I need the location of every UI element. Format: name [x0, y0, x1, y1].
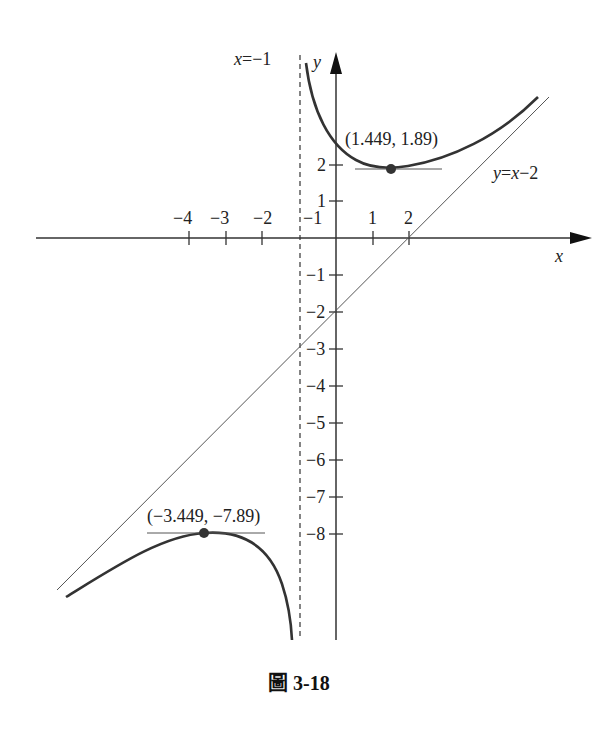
- y-tick-label: −1: [306, 265, 325, 285]
- y-tick-label: −3: [306, 339, 325, 359]
- y-tick-label: −7: [306, 487, 325, 507]
- max-point-label: (−3.449, −7.89): [147, 506, 260, 527]
- chart-canvas: x=−1 y x y=x−2 (1.449, 1.89) (−3.449, −7…: [0, 0, 601, 738]
- vertical-asymptote-label: x=−1: [233, 49, 271, 69]
- y-tick-label: 2: [317, 155, 326, 175]
- max-point-marker: [199, 528, 209, 538]
- x-tick-label: −2: [253, 208, 272, 228]
- oblique-asymptote: [57, 97, 549, 590]
- y-tick-label: −2: [306, 302, 325, 322]
- left-branch-curve: [66, 533, 292, 640]
- oblique-asymptote-label: y=x−2: [491, 163, 538, 183]
- y-axis-label: y: [311, 52, 321, 72]
- y-tick-label: 1: [317, 191, 326, 211]
- x-tick-label: −4: [173, 208, 192, 228]
- x-tick-label: −3: [210, 208, 229, 228]
- x-axis-arrow-icon: [570, 232, 592, 244]
- min-point-marker: [386, 164, 396, 174]
- x-axis-label: x: [554, 246, 563, 266]
- x-tick-label: 2: [404, 208, 413, 228]
- y-tick-label: −6: [306, 450, 325, 470]
- right-branch-curve: [306, 63, 538, 168]
- figure-caption: 圖 3-18: [268, 672, 330, 694]
- x-tick-label: 1: [368, 208, 377, 228]
- y-tick-label: −4: [306, 376, 325, 396]
- y-axis-arrow-icon: [330, 52, 342, 74]
- min-point-label: (1.449, 1.89): [345, 129, 438, 150]
- x-tick-label: −1: [303, 208, 322, 228]
- y-tick-label: −8: [306, 524, 325, 544]
- y-tick-label: −5: [306, 413, 325, 433]
